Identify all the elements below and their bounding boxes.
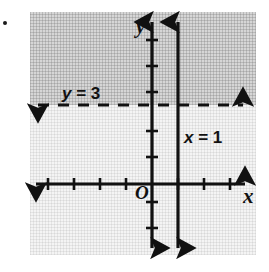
equation-value-x: = 1	[193, 128, 222, 147]
axes-and-lines	[0, 0, 269, 272]
origin-label: O	[135, 183, 149, 202]
equation-label-x-equals-1: x = 1	[184, 129, 222, 146]
y-axis	[146, 22, 158, 248]
equation-value-y: = 3	[71, 84, 100, 103]
coordinate-graph-figure: y x O y = 3 x = 1	[0, 0, 269, 272]
x-axis-label: x	[243, 186, 254, 207]
equation-label-y-equals-3: y = 3	[62, 85, 100, 102]
y-axis-label: y	[136, 16, 145, 37]
